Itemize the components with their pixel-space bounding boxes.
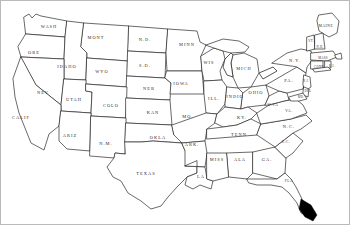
united-states-map[interactable]: WASHOREIDAHOMONTWYON.D.S.D.NEBMINNIOWAWI… bbox=[1, 1, 350, 225]
marker-group bbox=[299, 199, 317, 221]
state-label-idaho: IDAHO bbox=[57, 64, 76, 69]
black-marker-blob[interactable] bbox=[299, 199, 317, 221]
state-label-north-dakota: N.D. bbox=[139, 37, 152, 42]
state-label-michigan: MICH bbox=[236, 66, 252, 71]
state-label-ohio: OHIO bbox=[248, 90, 263, 95]
state-label-west-virginia: W.VA bbox=[268, 103, 279, 107]
state-label-mississippi: MISS bbox=[210, 157, 224, 162]
state-label-north-carolina: N.C. bbox=[283, 124, 296, 129]
state-label-nevada: NEV bbox=[37, 90, 49, 95]
state-label-indiana: INDIO bbox=[226, 94, 244, 99]
state-label-south-dakota: S.D. bbox=[139, 63, 151, 68]
state-label-nebraska: NEB bbox=[143, 86, 155, 91]
state-label-vermont: VT. bbox=[308, 39, 314, 43]
state-label-new-mexico: N.M. bbox=[99, 141, 112, 146]
state-label-wyoming: WYO bbox=[95, 69, 109, 74]
state-label-washington: WASH bbox=[41, 24, 58, 29]
state-label-florida: FLA bbox=[285, 179, 293, 183]
state-label-maine: MAINE bbox=[319, 24, 333, 28]
state-label-virginia: VA. bbox=[285, 109, 292, 113]
state-label-arkansas: ARK. bbox=[185, 142, 200, 147]
lake-erie-outline bbox=[259, 67, 277, 79]
state-shape-vermont[interactable] bbox=[307, 35, 315, 51]
state-label-pennsylvania: PA. bbox=[284, 78, 293, 83]
state-shape-cape-cod[interactable] bbox=[335, 53, 342, 59]
state-label-illinois: ILL. bbox=[208, 96, 220, 101]
state-label-tennessee: TENN bbox=[231, 132, 247, 137]
state-label-rhode-island: R.I. bbox=[329, 64, 335, 68]
state-label-iowa: IOWA bbox=[173, 81, 189, 86]
state-label-new-jersey: N.J. bbox=[303, 79, 309, 83]
map-frame: WASHOREIDAHOMONTWYON.D.S.D.NEBMINNIOWAWI… bbox=[0, 0, 350, 225]
state-label-connecticut: CONN bbox=[314, 65, 324, 69]
state-outlines bbox=[13, 13, 342, 215]
state-shape-colorado[interactable] bbox=[86, 84, 127, 118]
state-label-texas: TEXAS bbox=[136, 171, 155, 176]
state-label-minnesota: MINN bbox=[179, 42, 195, 47]
state-label-montana: MONT bbox=[87, 35, 104, 40]
state-label-louisiana: LA bbox=[197, 174, 205, 179]
state-label-oregon: ORE bbox=[28, 50, 40, 55]
state-label-new-hampshire: N.H. bbox=[316, 45, 323, 49]
state-label-south-carolina: S.C. bbox=[282, 140, 290, 144]
state-label-kansas: KAN bbox=[147, 110, 160, 115]
state-label-delaware: DEL bbox=[305, 89, 312, 93]
state-label-arizona: ARIZ bbox=[63, 133, 77, 138]
state-label-colorado: COLO bbox=[103, 103, 119, 108]
state-shape-arizona[interactable] bbox=[59, 111, 91, 151]
state-label-kentucky: KY. bbox=[237, 115, 247, 120]
state-label-georgia: GA. bbox=[262, 157, 273, 162]
state-label-oklahoma: OKLA bbox=[150, 135, 166, 140]
state-label-alabama: ALA bbox=[234, 157, 246, 162]
state-label-massachusetts: MASS bbox=[318, 56, 328, 60]
state-label-wisconsin: WIS bbox=[203, 60, 214, 65]
state-shape-new-mexico[interactable] bbox=[90, 116, 126, 158]
state-label-california: CALIF bbox=[12, 115, 30, 120]
state-shape-ohio[interactable] bbox=[241, 85, 269, 109]
state-shape-oregon[interactable] bbox=[18, 34, 65, 59]
state-shape-minnesota[interactable] bbox=[166, 29, 206, 71]
state-label-new-york: N.Y. bbox=[289, 58, 301, 63]
state-label-missouri: MO. bbox=[182, 114, 193, 119]
state-shape-montana[interactable] bbox=[81, 23, 129, 61]
state-label-utah: UTAH bbox=[66, 97, 82, 102]
state-shape-florida[interactable] bbox=[247, 173, 307, 215]
state-label-maryland: MD. bbox=[298, 95, 305, 99]
